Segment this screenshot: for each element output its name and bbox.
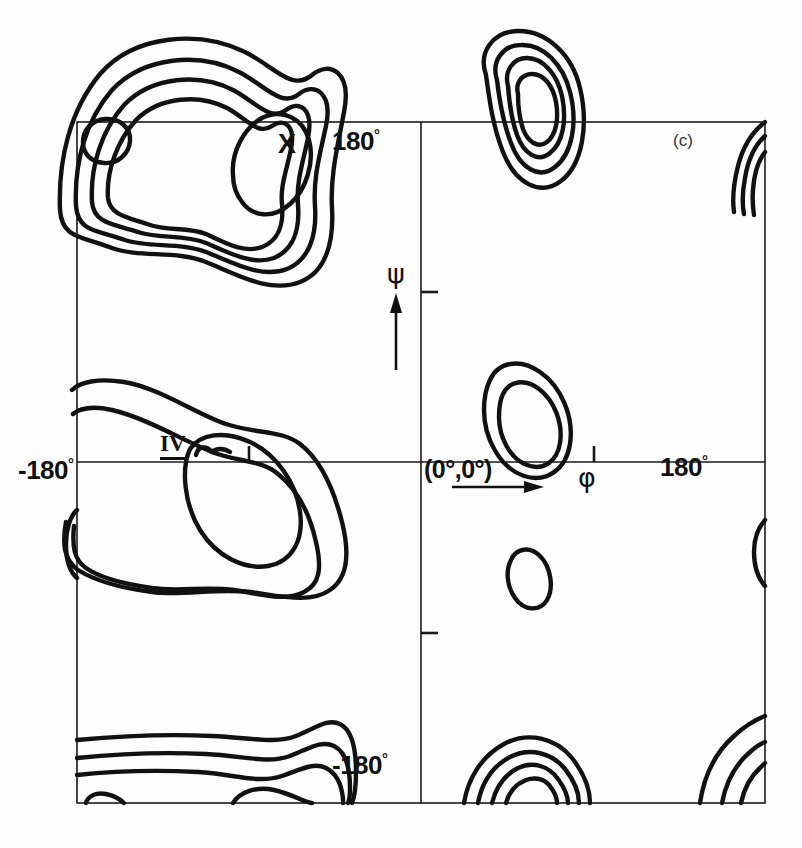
psi-axis-symbol: ψ: [387, 258, 405, 289]
panel-label: (c): [673, 131, 693, 151]
contour-region-IV-basin: [64, 380, 346, 597]
contour-level-2: [499, 382, 561, 467]
contour-level-1: [464, 737, 590, 803]
contour-level-1: [700, 716, 765, 803]
contour-level-1: [754, 520, 765, 586]
axis-label-psi-bottom: -180°: [332, 750, 388, 781]
contour-bottom-left-eye: [86, 793, 124, 803]
contour-level-4: [506, 778, 557, 803]
contour-level-1: [64, 380, 346, 597]
contour-mid-right-oval: [484, 364, 571, 478]
contour-level-3: [741, 763, 765, 803]
phi-axis-symbol: φ: [578, 462, 596, 493]
psi-arrow-head: [390, 293, 402, 313]
axis-label-phi-left: -180°: [18, 455, 74, 486]
contour-bottom-mid-right-well: [464, 737, 590, 803]
axis-label-psi-top: 180°: [332, 126, 379, 157]
contour-upper-left-basin: [60, 39, 346, 286]
contour-bottom-right-corner: [700, 716, 765, 803]
contour-level-4: [517, 74, 557, 145]
contour-figure: 180° -180° -180° 180° (0°,0°) ψ φ X IV (…: [0, 0, 802, 848]
contour-upper-mid-right-well: [484, 31, 584, 188]
axis-label-phi-right: 180°: [660, 452, 707, 483]
contour-lines: [60, 31, 765, 803]
minimum-marker-x: X: [278, 129, 296, 160]
contour-level-1: [77, 722, 356, 803]
contour-level-4: [233, 789, 312, 803]
contour-right-edge-upper: [733, 122, 765, 215]
contour-level-1: [508, 550, 551, 609]
contour-bottom-left-bands: [77, 722, 356, 803]
contour-level-3: [753, 152, 765, 215]
axis-label-origin: (0°,0°): [424, 455, 492, 484]
phi-arrow-head: [524, 481, 544, 493]
contour-lower-mid-small-oval: [508, 550, 551, 609]
contour-level-3: [185, 435, 301, 567]
region-label-IV: IV: [160, 432, 186, 455]
contour-right-edge-mid: [754, 520, 765, 586]
contour-plot-svg: [0, 0, 802, 848]
